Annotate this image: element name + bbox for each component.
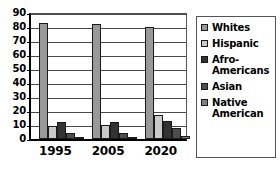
- bar: [119, 133, 128, 139]
- y-tick-label: 10: [0, 121, 26, 129]
- x-tick-label: 2005: [82, 143, 135, 161]
- bar-group: [137, 14, 190, 139]
- bar: [172, 128, 181, 139]
- bar-chart: 9080706050403020100 199520052020 WhitesH…: [0, 0, 280, 174]
- legend-label: Asian: [212, 81, 242, 92]
- bar: [48, 126, 57, 139]
- y-tick-label: 20: [0, 107, 26, 115]
- legend-item: Asian: [201, 81, 272, 92]
- legend-swatch-icon: [201, 83, 208, 90]
- bar: [181, 136, 190, 139]
- plot-area: [29, 13, 187, 141]
- y-tick-label: 0: [0, 135, 26, 143]
- y-tick-label: 80: [0, 23, 26, 31]
- bar: [128, 137, 137, 139]
- bar: [163, 121, 172, 139]
- x-tick-label: 1995: [29, 143, 82, 161]
- bar: [145, 27, 154, 139]
- legend-swatch-icon: [201, 56, 208, 63]
- x-tick-label: 2020: [134, 143, 187, 161]
- bars-layer: [31, 14, 186, 139]
- bar: [154, 115, 163, 139]
- legend-label: Hispanic: [212, 38, 259, 49]
- legend-swatch-icon: [201, 99, 208, 106]
- y-tick-label: 30: [0, 93, 26, 101]
- y-tick-label: 90: [0, 9, 26, 17]
- legend-item: Afro-Americans: [201, 54, 272, 76]
- legend-item: Native American: [201, 97, 272, 119]
- bar: [66, 133, 75, 139]
- legend-swatch-icon: [201, 24, 208, 31]
- bar: [57, 122, 66, 139]
- bar: [39, 23, 48, 139]
- legend-item: Whites: [201, 22, 272, 33]
- legend-label: Afro-Americans: [212, 54, 272, 76]
- bar-group: [31, 14, 84, 139]
- y-tick-label: 60: [0, 51, 26, 59]
- bar: [110, 122, 119, 139]
- axis-tick: [27, 140, 31, 141]
- bar-group: [84, 14, 137, 139]
- legend-label: Native American: [212, 97, 272, 119]
- y-tick-label: 70: [0, 37, 26, 45]
- y-axis: 9080706050403020100: [0, 12, 26, 141]
- x-axis: 199520052020: [29, 143, 187, 161]
- chart-legend: WhitesHispanicAfro-AmericansAsianNative …: [196, 16, 276, 158]
- legend-item: Hispanic: [201, 38, 272, 49]
- y-tick-label: 50: [0, 65, 26, 73]
- legend-label: Whites: [212, 22, 250, 33]
- bar: [101, 125, 110, 139]
- y-tick-label: 40: [0, 79, 26, 87]
- bar: [75, 137, 84, 139]
- legend-swatch-icon: [201, 40, 208, 47]
- bar: [92, 24, 101, 139]
